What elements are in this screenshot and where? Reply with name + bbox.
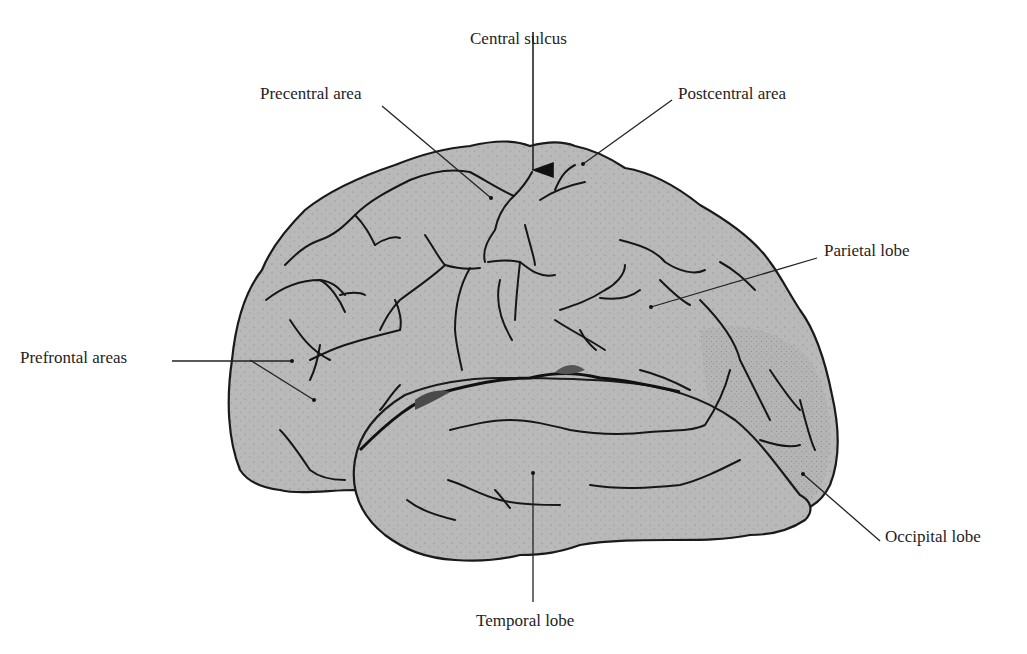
label-central-sulcus: Central sulcus bbox=[470, 30, 567, 47]
label-temporal-lobe: Temporal lobe bbox=[476, 612, 574, 629]
label-prefrontal-areas: Prefrontal areas bbox=[20, 349, 127, 366]
label-postcentral-area: Postcentral area bbox=[678, 85, 786, 102]
brain-illustration bbox=[0, 0, 1027, 654]
brain-diagram: Central sulcus Precentral area Postcentr… bbox=[0, 0, 1027, 654]
label-parietal-lobe: Parietal lobe bbox=[824, 242, 909, 259]
label-precentral-area: Precentral area bbox=[260, 85, 361, 102]
label-occipital-lobe: Occipital lobe bbox=[885, 528, 981, 545]
